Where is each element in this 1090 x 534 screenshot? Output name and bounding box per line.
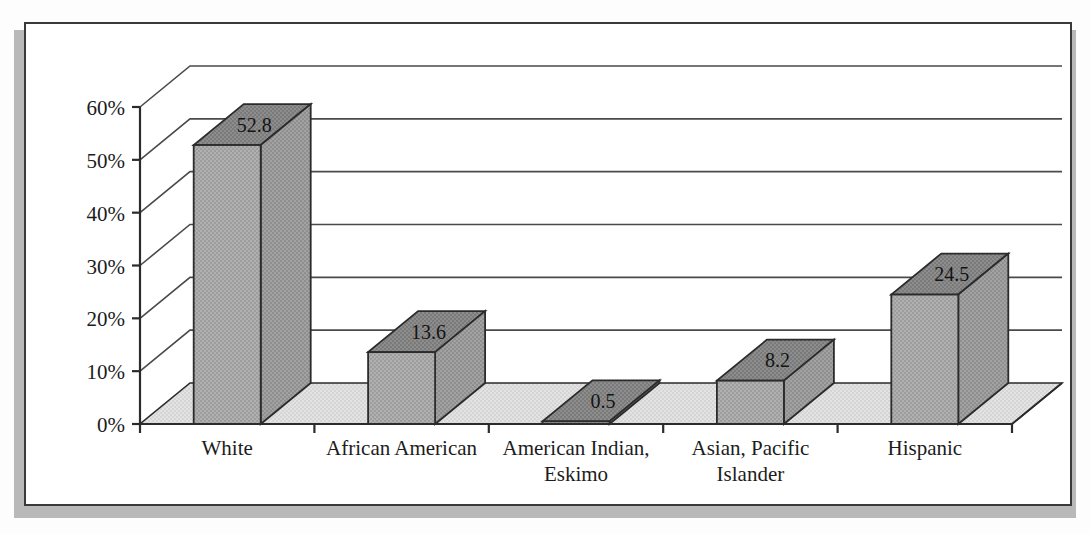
y-axis-tick-label: 40% bbox=[87, 202, 126, 226]
y-axis-tick-label: 50% bbox=[87, 149, 126, 173]
y-axis bbox=[132, 107, 140, 424]
x-axis-category-label: Hispanic bbox=[887, 436, 962, 460]
x-axis-category-label: Eskimo bbox=[544, 462, 608, 486]
bar-value-label: 0.5 bbox=[591, 390, 616, 412]
y-axis-tick-label: 10% bbox=[87, 360, 126, 384]
bar-front-face bbox=[368, 352, 435, 424]
y-axis-tick-label: 20% bbox=[87, 307, 126, 331]
bars bbox=[194, 104, 1009, 424]
gridline bbox=[140, 66, 1062, 107]
bar-side-face bbox=[261, 104, 311, 424]
x-axis-category-label: White bbox=[202, 436, 253, 460]
x-axis-category-label: African American bbox=[326, 436, 478, 460]
bar-chart-3d: 0%10%20%30%40%50%60% WhiteAfrican Americ… bbox=[0, 0, 1090, 534]
x-axis-category-label: Islander bbox=[717, 462, 785, 486]
bar-value-label: 8.2 bbox=[765, 349, 790, 371]
y-axis-tick-label: 0% bbox=[97, 413, 125, 437]
bar-value-label: 13.6 bbox=[411, 321, 446, 343]
bar-front-face bbox=[891, 295, 958, 424]
bar bbox=[194, 104, 311, 424]
y-axis-tick-label: 60% bbox=[87, 96, 126, 120]
bar-value-labels: 52.813.60.58.224.5 bbox=[237, 114, 970, 412]
x-axis-category-label: Asian, Pacific bbox=[692, 436, 810, 460]
bar-value-label: 52.8 bbox=[237, 114, 272, 136]
y-axis-tick-label: 30% bbox=[87, 255, 126, 279]
x-axis-category-label: American Indian, bbox=[503, 436, 650, 460]
scanned-page: 0%10%20%30%40%50%60% WhiteAfrican Americ… bbox=[0, 0, 1090, 534]
y-axis-tick-labels: 0%10%20%30%40%50%60% bbox=[87, 96, 126, 437]
bar-value-label: 24.5 bbox=[934, 263, 969, 285]
x-axis-category-labels: WhiteAfrican AmericanAmerican Indian,Esk… bbox=[202, 436, 963, 486]
bar-front-face bbox=[194, 145, 261, 424]
bar-front-face bbox=[717, 381, 784, 424]
